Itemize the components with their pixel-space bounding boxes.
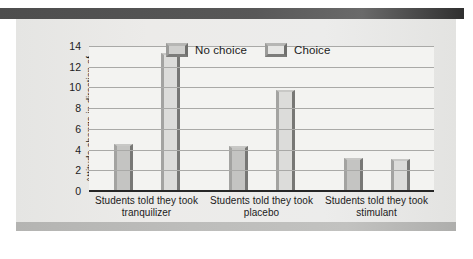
page-bottom-band xyxy=(16,222,456,231)
figure-panel: No choice Choice Attitude change in dire… xyxy=(16,19,456,228)
y-axis-tick-6: 6 xyxy=(75,123,81,135)
page-top-band xyxy=(0,8,464,19)
x-axis-line xyxy=(89,190,434,192)
figure-page: No choice Choice Attitude change in dire… xyxy=(0,0,473,259)
y-axis-tick-10: 10 xyxy=(69,81,81,93)
y-axis-tick-4: 4 xyxy=(75,144,81,156)
gridline-10 xyxy=(89,87,434,88)
y-axis-tick-0: 0 xyxy=(75,185,81,197)
bar-no-choice-3 xyxy=(344,158,363,191)
legend-label-no-choice: No choice xyxy=(195,44,247,56)
gridline-6 xyxy=(89,129,434,130)
legend-item-choice: Choice xyxy=(265,43,330,57)
x-axis-category-labels: Students told they took tranquilizerStud… xyxy=(89,195,434,219)
x-axis-label-2: Students told they took placebo xyxy=(204,195,319,219)
x-axis-label-3: Students told they took stimulant xyxy=(319,195,434,219)
chart-plot-wrapper: Attitude change in direction of counter-… xyxy=(61,46,441,221)
bar-choice-3 xyxy=(391,159,410,191)
bar-choice-2 xyxy=(276,90,295,192)
bar-no-choice-1 xyxy=(114,144,133,191)
bar-no-choice-2 xyxy=(229,146,248,191)
legend-swatch-no-choice xyxy=(166,43,188,57)
legend-item-no-choice: No choice xyxy=(166,43,247,57)
gridline-12 xyxy=(89,67,434,68)
bar-group-3 xyxy=(319,46,434,191)
bar-group-2 xyxy=(204,46,319,191)
y-axis-tick-8: 8 xyxy=(75,102,81,114)
x-axis-label-1: Students told they took tranquilizer xyxy=(89,195,204,219)
y-axis-tick-labels: 14121086420 xyxy=(61,46,85,191)
y-axis-tick-14: 14 xyxy=(69,40,81,52)
bar-groups xyxy=(89,46,434,191)
legend-label-choice: Choice xyxy=(294,44,330,56)
y-axis-tick-12: 12 xyxy=(69,61,81,73)
gridline-8 xyxy=(89,108,434,109)
gridline-4 xyxy=(89,150,434,151)
gridline-2 xyxy=(89,170,434,171)
y-axis-tick-2: 2 xyxy=(75,164,81,176)
bar-group-1 xyxy=(89,46,204,191)
legend-swatch-choice xyxy=(265,43,287,57)
chart-legend: No choice Choice xyxy=(166,43,330,57)
chart-plot-area xyxy=(89,46,434,191)
